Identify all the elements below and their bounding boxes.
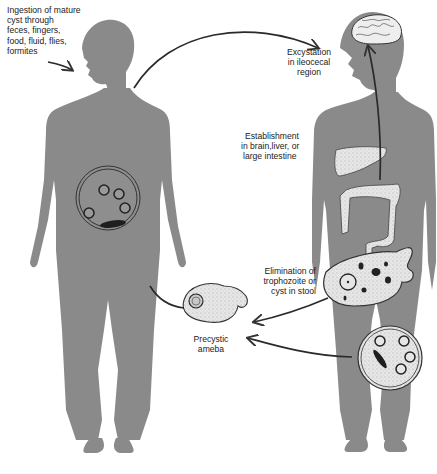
life-cycle-diagram — [0, 0, 437, 474]
label-line: large intestine — [241, 151, 323, 161]
label-line: Excystation — [280, 47, 338, 57]
label-line: Elimination of — [246, 266, 316, 276]
label-line: region — [280, 67, 338, 77]
label-line: cyst in stool — [246, 286, 316, 296]
arrow-ingestion — [48, 62, 72, 70]
label-ingestion: Ingestion of mature cyst through feces, … — [7, 5, 81, 56]
precystic-ameba — [183, 284, 247, 323]
label-line: food, fluid, flies, — [7, 36, 81, 46]
label-line: in brain,liver, or — [241, 141, 323, 151]
label-line: Establishment — [241, 131, 323, 141]
label-excystation: Excystation in ileocecal region — [280, 47, 338, 78]
label-line: trophozoite or — [246, 276, 316, 286]
stool-cyst — [358, 326, 422, 390]
label-line: Precystic — [188, 334, 234, 344]
label-precystic: Precystic ameba — [188, 334, 234, 354]
left-human-figure — [30, 20, 186, 453]
label-line: feces, fingers, — [7, 25, 81, 35]
label-line: formites — [7, 46, 81, 56]
mature-cyst-left — [76, 166, 140, 230]
label-line: cyst through — [7, 15, 81, 25]
label-elimination: Elimination of trophozoite or cyst in st… — [246, 266, 316, 297]
label-establishment: Establishment in brain,liver, or large i… — [241, 131, 323, 162]
label-line: Ingestion of mature — [7, 5, 81, 15]
brain — [352, 15, 402, 44]
arrow-trophozoite-to-precystic — [254, 298, 328, 322]
label-line: in ileocecal — [280, 57, 338, 67]
label-line: ameba — [188, 344, 234, 354]
